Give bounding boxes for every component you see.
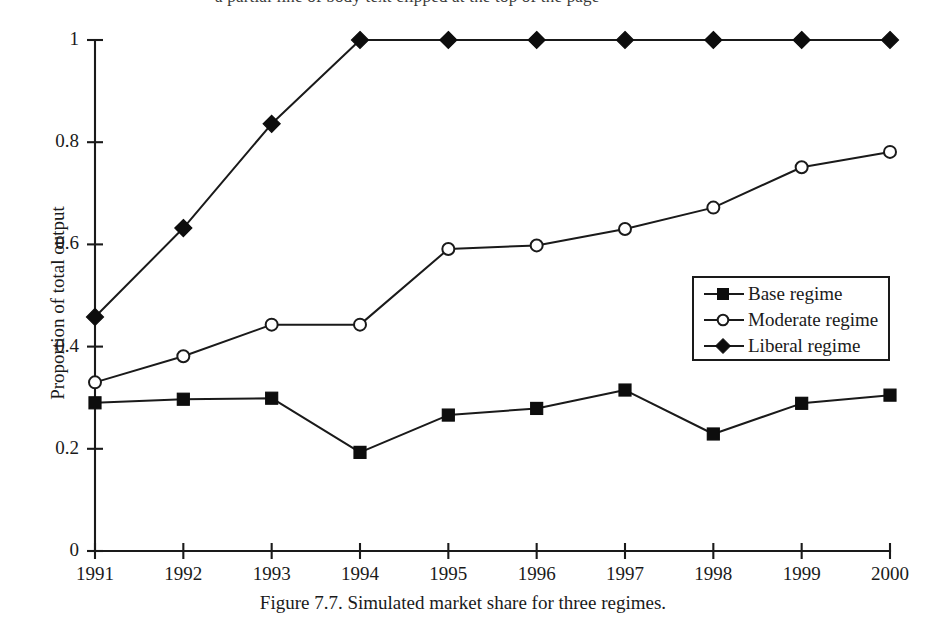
data-point bbox=[884, 389, 896, 401]
legend-label-liberal-regime: Liberal regime bbox=[748, 335, 860, 357]
x-tick-label-4: 1995 bbox=[403, 563, 493, 585]
data-point bbox=[796, 397, 808, 409]
legend-label-moderate-regime: Moderate regime bbox=[748, 309, 878, 331]
data-point bbox=[531, 239, 543, 251]
data-point bbox=[354, 446, 366, 458]
data-point bbox=[882, 32, 899, 49]
y-tick-label-4: 0.8 bbox=[0, 130, 79, 152]
data-point bbox=[177, 393, 189, 405]
data-point bbox=[707, 202, 719, 214]
data-point bbox=[89, 376, 101, 388]
data-point bbox=[528, 32, 545, 49]
x-tick-label-5: 1996 bbox=[492, 563, 582, 585]
y-tick-label-0: 0 bbox=[0, 539, 79, 561]
data-point bbox=[793, 32, 810, 49]
x-tick-label-1: 1992 bbox=[138, 563, 228, 585]
data-point bbox=[617, 32, 634, 49]
data-series bbox=[87, 32, 899, 459]
data-point bbox=[442, 243, 454, 255]
legend-item-liberal-regime: Liberal regime bbox=[702, 333, 860, 359]
legend-swatch-filled-diamond bbox=[702, 335, 746, 357]
y-axis-title: Proportion of total output bbox=[47, 158, 69, 448]
x-tick-label-3: 1994 bbox=[315, 563, 405, 585]
x-tick-label-8: 1999 bbox=[757, 563, 847, 585]
data-point bbox=[266, 319, 278, 331]
x-tick-label-0: 1991 bbox=[50, 563, 140, 585]
x-tick-label-9: 2000 bbox=[845, 563, 926, 585]
data-point bbox=[266, 392, 278, 404]
chart-legend: Base regime Moderate regime Liberal regi… bbox=[692, 276, 890, 361]
data-point bbox=[177, 350, 189, 362]
data-point bbox=[531, 402, 543, 414]
data-point bbox=[89, 397, 101, 409]
data-point bbox=[619, 223, 631, 235]
legend-swatch-open-circle bbox=[702, 309, 746, 331]
data-point bbox=[619, 384, 631, 396]
x-tick-label-7: 1998 bbox=[668, 563, 758, 585]
legend-item-base-regime: Base regime bbox=[702, 281, 842, 307]
series-line-0 bbox=[95, 390, 890, 452]
legend-swatch-filled-square bbox=[702, 283, 746, 305]
x-tick-label-6: 1997 bbox=[580, 563, 670, 585]
figure-caption: Figure 7.7. Simulated market share for t… bbox=[0, 592, 926, 614]
y-tick-label-5: 1 bbox=[0, 28, 79, 50]
data-point bbox=[707, 428, 719, 440]
legend-item-moderate-regime: Moderate regime bbox=[702, 307, 878, 333]
data-point bbox=[440, 32, 457, 49]
data-point bbox=[884, 146, 896, 158]
data-point bbox=[705, 32, 722, 49]
data-point bbox=[442, 409, 454, 421]
series-base-regime bbox=[89, 384, 896, 458]
x-tick-label-2: 1993 bbox=[227, 563, 317, 585]
figure-7-7: 00.20.40.60.81 1991199219931994199519961… bbox=[0, 0, 926, 625]
data-point bbox=[796, 161, 808, 173]
legend-label-base-regime: Base regime bbox=[748, 283, 842, 305]
data-point bbox=[354, 319, 366, 331]
